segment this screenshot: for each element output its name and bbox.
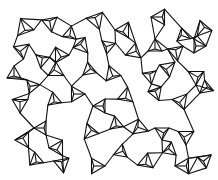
tetrahedron-outline — [118, 87, 133, 102]
connector-line — [50, 47, 56, 57]
connector-line — [148, 128, 155, 131]
tetrahedron-outline — [110, 116, 124, 129]
tetrahedron — [162, 142, 176, 155]
connector-line — [102, 12, 115, 30]
tetrahedron-edge — [116, 126, 123, 127]
connector-line — [151, 17, 155, 39]
tetrahedron-outline — [36, 55, 50, 68]
connector-line — [44, 161, 54, 163]
connector-line — [99, 129, 110, 133]
tetrahedron — [62, 26, 76, 39]
connector-line — [99, 29, 101, 40]
tetrahedron-outline — [42, 17, 57, 32]
tetrahedron — [84, 124, 99, 139]
connector-line — [29, 128, 35, 132]
connector-line — [46, 135, 63, 140]
connector-line — [40, 76, 48, 85]
tetrahedron — [36, 55, 50, 68]
connector-line — [183, 46, 194, 53]
tetrahedron-outline — [86, 12, 102, 29]
connector-line — [21, 19, 42, 20]
tetrahedron-edge — [142, 73, 149, 74]
connector-line — [107, 54, 109, 66]
tetrahedron-outline — [62, 26, 76, 39]
connector-line — [40, 85, 53, 93]
tetrahedron — [197, 155, 211, 168]
connector-line — [155, 25, 165, 39]
tetrahedron — [56, 47, 70, 63]
tetrahedron — [48, 92, 62, 105]
tetrahedron — [113, 144, 127, 157]
tetrahedron — [197, 21, 212, 36]
connector-line — [187, 85, 196, 94]
tetrahedron-outline — [138, 153, 153, 168]
connector-line — [121, 76, 128, 88]
connector-line — [52, 32, 63, 37]
tetrahedron — [83, 62, 97, 75]
tetrahedron — [14, 44, 29, 59]
tetrahedron — [175, 158, 189, 174]
tetrahedron — [115, 22, 129, 38]
connector-lines — [7, 9, 213, 174]
tetrahedron-outline — [48, 92, 62, 105]
connector-line — [124, 127, 134, 134]
tetrahedron — [138, 153, 153, 168]
tetrahedron — [148, 39, 162, 51]
tetrahedron — [126, 43, 141, 58]
connector-line — [115, 30, 116, 43]
tetrahedron — [42, 17, 57, 32]
tetrahedron — [27, 80, 40, 94]
tetrahedron — [148, 87, 161, 101]
connector-line — [14, 59, 24, 66]
tetrahedron-outline — [30, 152, 44, 165]
geometric-pattern-artwork — [0, 0, 218, 180]
connector-line — [29, 44, 36, 55]
tetrahedron-outline — [133, 119, 148, 134]
tetrahedron-outline — [106, 66, 121, 81]
tetrahedron — [155, 128, 169, 140]
tetrahedron — [92, 158, 106, 174]
connector-line — [151, 84, 161, 87]
tetrahedron-edge — [136, 43, 137, 51]
connector-line — [178, 61, 189, 72]
connector-line — [175, 155, 176, 166]
connector-line — [204, 72, 205, 81]
tetrahedra — [7, 9, 213, 174]
connector-line — [50, 57, 56, 63]
connector-line — [197, 36, 206, 46]
tetrahedron — [172, 94, 187, 109]
tetrahedron — [34, 121, 46, 135]
connector-line — [165, 9, 182, 28]
connector-line — [127, 157, 137, 165]
connector-line — [162, 140, 171, 142]
tetrahedron — [200, 80, 214, 93]
connector-line — [177, 41, 183, 46]
connector-line — [141, 58, 143, 73]
tetrahedron-outline — [126, 43, 141, 58]
connector-line — [105, 113, 115, 116]
connector-line — [69, 48, 73, 55]
connector-line — [14, 36, 18, 47]
tetrahedron-edge — [29, 86, 30, 93]
connector-line — [97, 73, 107, 81]
connector-line — [12, 94, 29, 100]
connector-line — [72, 75, 83, 86]
connector-line — [71, 18, 86, 26]
tetrahedron — [151, 9, 165, 25]
tetrahedron-edge — [138, 119, 139, 127]
connector-line — [155, 39, 168, 49]
connector-line — [153, 153, 163, 168]
connector-line — [41, 68, 49, 76]
tetrahedron-edge — [86, 18, 95, 19]
tetrahedron-edge — [62, 36, 69, 37]
connector-line — [184, 109, 194, 131]
connector-line — [162, 49, 168, 51]
tetrahedron-outline — [142, 71, 156, 84]
connector-line — [29, 148, 35, 152]
tetrahedron — [133, 119, 148, 134]
connector-line — [105, 155, 113, 166]
connector-line — [161, 77, 169, 87]
connector-line — [62, 102, 72, 103]
connector-line — [159, 99, 172, 100]
tetrahedron — [12, 100, 28, 114]
